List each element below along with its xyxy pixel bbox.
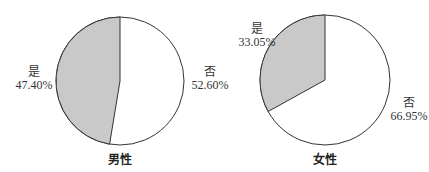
male-no-label: 否 52.60% [188, 66, 232, 92]
male-pie [56, 17, 184, 145]
male-chart-title: 男性 [90, 150, 150, 167]
male-pie-yes-slice [56, 17, 120, 144]
female-yes-pct: 33.05% [234, 36, 280, 49]
male-yes-pct: 47.40% [12, 79, 56, 92]
male-yes-label: 是 47.40% [12, 66, 56, 92]
female-yes-label: 是 33.05% [234, 23, 280, 49]
male-no-pct: 52.60% [188, 79, 232, 92]
female-chart-title: 女性 [295, 150, 355, 167]
female-no-label: 否 66.95% [386, 97, 429, 123]
female-no-pct: 66.95% [386, 110, 429, 123]
